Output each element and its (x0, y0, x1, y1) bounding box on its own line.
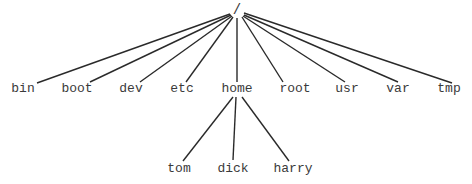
node-root-dir: root (279, 82, 310, 96)
node-etc: etc (170, 82, 193, 96)
node-harry: harry (273, 162, 312, 176)
edge-root-var (244, 15, 398, 82)
edge-home-tom (183, 97, 233, 161)
node-usr: usr (335, 82, 358, 96)
edge-root-dev (140, 16, 232, 82)
edge-home-harry (242, 97, 289, 161)
node-var: var (386, 82, 409, 96)
node-dick: dick (217, 162, 248, 176)
node-root: / (233, 3, 241, 17)
node-boot: boot (61, 82, 92, 96)
node-home: home (221, 82, 252, 96)
edge-root-root (242, 17, 283, 82)
edge-root-usr (243, 16, 345, 82)
edge-root-tmp (244, 13, 452, 83)
edge-root-bin (37, 14, 230, 83)
edge-home-dick (233, 97, 236, 160)
node-bin: bin (11, 82, 34, 96)
node-tom: tom (167, 162, 190, 176)
node-tmp: tmp (437, 82, 460, 96)
node-dev: dev (119, 82, 142, 96)
